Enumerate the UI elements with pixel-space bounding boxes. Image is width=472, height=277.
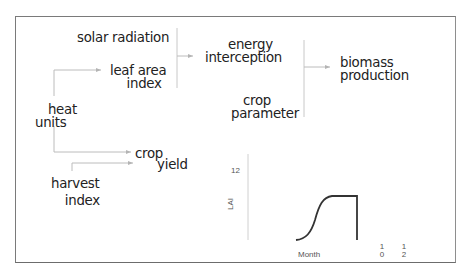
- node-heat-units: heat units: [35, 103, 77, 129]
- node-crop-parameter: crop parameter: [231, 94, 299, 120]
- node-leaf-area-index: leaf area index: [110, 64, 166, 90]
- node-biomass-production: biomass production: [340, 56, 409, 82]
- arrow-heat-to-lai: [54, 70, 101, 96]
- node-energy-interception: energy interception: [205, 38, 282, 64]
- chart-y-label: LAI: [226, 198, 235, 210]
- chart-x-tick-10: 10: [379, 243, 385, 259]
- chart-x-label: Month: [298, 250, 320, 259]
- arrow-harvest-to-yield: [72, 163, 133, 171]
- node-solar-radiation: solar radiation: [77, 31, 169, 44]
- lai-curve: [296, 196, 357, 240]
- node-crop-yield: crop yield: [135, 147, 188, 171]
- chart-y-tick-12: 12: [231, 166, 240, 175]
- chart-x-tick-12: 12: [401, 243, 407, 259]
- node-harvest-index: harvest index: [51, 177, 100, 207]
